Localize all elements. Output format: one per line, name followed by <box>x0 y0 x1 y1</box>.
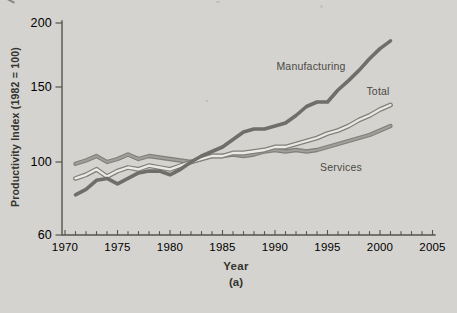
x-tick-label: 1980 <box>157 241 183 253</box>
series-label-services: Services <box>320 161 362 173</box>
axis-lines <box>62 21 435 235</box>
figure-caption: (a) <box>229 276 243 288</box>
x-tick-label: 1970 <box>52 241 78 253</box>
x-tick-label: 1990 <box>262 241 288 253</box>
x-tick-label: 2005 <box>419 241 445 253</box>
y-tick-label: 200 <box>31 16 52 30</box>
x-tick-label: 1985 <box>209 241 235 253</box>
figure-panel: 2001501006019701975198019851990199520002… <box>0 0 457 313</box>
y-tick-label: 100 <box>31 155 52 169</box>
x-tick-label: 1975 <box>104 241 130 253</box>
productivity-line-chart: 2001501006019701975198019851990199520002… <box>0 0 457 313</box>
y-axis-title: Productivity Index (1982 = 100) <box>9 47 21 207</box>
x-axis-title: Year <box>223 260 249 272</box>
scan-artifact <box>206 100 208 102</box>
series-line-services-outline <box>76 126 391 164</box>
axes <box>62 21 435 235</box>
x-tick-label: 2000 <box>367 241 393 253</box>
series-label-manufacturing: Manufacturing <box>276 60 345 72</box>
series-label-total: Total <box>366 85 389 97</box>
scan-artifact <box>320 5 323 8</box>
scan-artifact <box>216 1 220 3</box>
y-tick-label: 60 <box>38 228 52 242</box>
x-tick-label: 1995 <box>314 241 340 253</box>
y-tick-label: 150 <box>31 80 52 94</box>
